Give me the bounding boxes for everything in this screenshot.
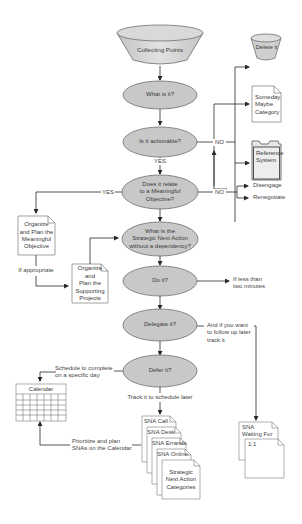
collecting-points-label: Collecting Points [120, 44, 200, 56]
line: Waiting For [242, 431, 272, 438]
sna-waiting-for-label: SNA Waiting For [242, 424, 272, 439]
sna-call-label: SNA Call [142, 418, 170, 425]
track-later-label: Track it to schedule later [120, 394, 200, 401]
line: System [256, 157, 276, 164]
schedule-label: Schedule to complete on a specific day [55, 365, 113, 380]
line: Projects [79, 295, 101, 302]
yes-actionable-label: YES [152, 158, 168, 165]
meaningful-objective-label: Does it relate to a Meaningful Objective… [122, 180, 198, 204]
line: Prioritize and plan [72, 438, 132, 445]
line: Someday [255, 94, 280, 101]
sna-desk-label: SNA Desk [147, 429, 175, 436]
line: to follow up later [207, 329, 251, 336]
no-actionable-label: NO [213, 139, 226, 146]
line: Objective [24, 243, 49, 250]
line: Strategic Next Action [132, 235, 188, 242]
follow-up-label: And if you want to follow up later track… [207, 322, 251, 344]
one-on-one-label: 1:1 [248, 441, 256, 448]
line: Meaningful [22, 236, 51, 243]
someday-maybe-label: Someday Maybe Category [252, 93, 281, 117]
gtd-flowchart [0, 0, 302, 524]
line: without a dependency? [129, 243, 191, 250]
line: Categories [166, 484, 195, 491]
sna-categories-label: Strategic Next Action Categories [162, 468, 200, 492]
sna-online-label: SNA Online [157, 451, 185, 458]
is-it-actionable-label: Is it actionable? [123, 136, 197, 148]
defer-it-label: Defer it? [123, 365, 197, 377]
reference-system-label: Reference System [254, 149, 280, 165]
no-objective-label: NO [213, 189, 226, 196]
line: and Plan the [20, 229, 54, 236]
line: SNA [242, 424, 272, 431]
organize-projects-label: Organize and Plan the Supporting Project… [72, 269, 108, 299]
line: Schedule to complete [55, 365, 113, 372]
if-less-than-label: If less than two minutes [233, 276, 265, 291]
what-is-it-label: What is it? [123, 89, 197, 101]
if-appropriate-label: If appropriate [14, 267, 58, 274]
line: Supporting [75, 288, 104, 295]
delete-it-label: Delete it [252, 42, 281, 54]
line: Next Action [166, 476, 196, 483]
renegotiate-label: Renegotiate [253, 194, 285, 201]
strategic-next-action-label: What is the Strategic Next Action withou… [122, 227, 198, 251]
line: Organize and [72, 265, 108, 280]
line: Category [255, 109, 279, 116]
line: on a specific day [55, 372, 113, 379]
line: SNAs on the Calendar [72, 445, 132, 452]
sna-errands-label: SNA Errands [152, 440, 180, 447]
line: Strategic [169, 469, 193, 476]
line: Plan the [79, 280, 101, 287]
do-it-label: Do it? [123, 275, 197, 287]
disengage-label: Disengage [253, 182, 282, 189]
line: Reference [256, 150, 284, 157]
line: What is the [145, 228, 175, 235]
line: Organize [24, 221, 48, 228]
calendar-label: Calendar [16, 385, 66, 394]
line: Maybe [255, 101, 273, 108]
delegate-it-label: Delegate it? [123, 319, 197, 331]
line: Objective? [146, 196, 174, 203]
yes-objective-label: YES [101, 189, 115, 196]
line: If less than [233, 276, 265, 283]
line: Does it relate [142, 181, 177, 188]
line: two minutes [233, 283, 265, 290]
line: to a Meaningful [139, 188, 180, 195]
line: track it [207, 337, 251, 344]
line: And if you want [207, 322, 251, 329]
prioritize-label: Prioritize and plan SNAs on the Calendar [72, 438, 132, 453]
organize-objective-label: Organize and Plan the Meaningful Objecti… [18, 221, 55, 251]
